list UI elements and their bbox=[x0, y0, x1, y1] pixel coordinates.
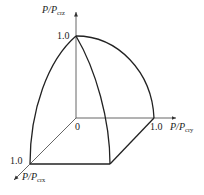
interaction-diagram: P/Pcrz 1.0 0 1.0 P/Pcry 1.0 P/Pcrx bbox=[0, 0, 204, 195]
x-axis-tick: 1.0 bbox=[10, 156, 23, 166]
curve-yz bbox=[76, 36, 154, 118]
z-axis-label: P/Pcrz bbox=[42, 5, 65, 17]
z-axis-tick: 1.0 bbox=[57, 31, 70, 41]
origin-label: 0 bbox=[75, 122, 80, 132]
curve-diagonal bbox=[76, 36, 110, 164]
curve-xz bbox=[30, 36, 76, 164]
y-axis-tick: 1.0 bbox=[150, 122, 163, 132]
y-axis-label: P/Pcry bbox=[170, 122, 193, 134]
diagram-canvas bbox=[0, 0, 204, 195]
base-right-edge bbox=[110, 118, 154, 164]
x-axis-label: P/Pcrx bbox=[22, 172, 45, 184]
